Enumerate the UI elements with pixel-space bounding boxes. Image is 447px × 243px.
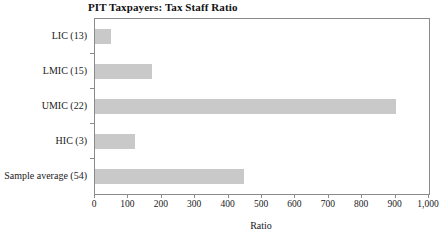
x-axis-tick-label: 800 <box>354 199 368 209</box>
y-axis-tick-mark <box>90 123 94 124</box>
x-axis-tick-mark <box>94 194 95 198</box>
x-axis-tick-label: 200 <box>154 199 168 209</box>
x-axis-tick-label: 100 <box>120 199 134 209</box>
bar <box>95 169 244 184</box>
x-axis-tick-label: 900 <box>387 199 401 209</box>
bar-row <box>95 89 429 124</box>
y-axis-label-group: LIC (13)LMIC (15)UMIC (22)HIC (3)Sample … <box>0 18 90 193</box>
bars-layer <box>95 19 429 194</box>
bar <box>95 64 152 79</box>
bar-row <box>95 19 429 54</box>
bar-row <box>95 124 429 159</box>
y-axis-tick-mark <box>90 88 94 89</box>
bar <box>95 99 396 114</box>
x-axis-tick-mark <box>428 194 429 198</box>
x-axis-tick-mark <box>228 194 229 198</box>
y-axis-tick-mark <box>90 158 94 159</box>
y-axis-tick-mark <box>90 53 94 54</box>
x-axis-tick-label: 300 <box>187 199 201 209</box>
chart-title: PIT Taxpayers: Tax Staff Ratio <box>88 1 238 13</box>
x-axis-tick-mark <box>261 194 262 198</box>
x-axis-tick-label: 700 <box>321 199 335 209</box>
x-axis-tick-label: 0 <box>92 199 97 209</box>
plot-area <box>94 18 430 195</box>
x-axis-tick-mark <box>127 194 128 198</box>
x-axis-tick-label: 600 <box>287 199 301 209</box>
x-axis-tick-mark <box>161 194 162 198</box>
x-axis-tick-mark <box>294 194 295 198</box>
bar-row <box>95 54 429 89</box>
y-axis-tick-label: UMIC (22) <box>0 88 90 123</box>
bar <box>95 134 135 149</box>
y-axis-tick-label: HIC (3) <box>0 123 90 158</box>
chart-figure: PIT Taxpayers: Tax Staff Ratio LIC (13)L… <box>0 0 447 243</box>
x-axis-tick-mark <box>361 194 362 198</box>
y-axis-tick-label: LMIC (15) <box>0 53 90 88</box>
bar <box>95 29 111 44</box>
x-axis-tick-mark <box>395 194 396 198</box>
x-axis-tick-mark <box>328 194 329 198</box>
x-axis-tick-label: 500 <box>254 199 268 209</box>
bar-row <box>95 159 429 194</box>
x-axis-tick-mark <box>194 194 195 198</box>
y-axis-tick-label: LIC (13) <box>0 18 90 53</box>
y-axis-tick-label: Sample average (54) <box>0 158 90 193</box>
x-axis-tick-label: 1,000 <box>417 199 438 209</box>
x-axis-title: Ratio <box>94 220 428 231</box>
x-axis-tick-label: 400 <box>220 199 234 209</box>
